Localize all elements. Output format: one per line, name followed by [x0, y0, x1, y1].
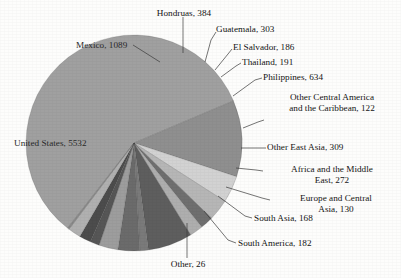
- label-guatemala: Guatemala, 303: [216, 24, 274, 35]
- label-mexico: Mexico, 1089: [76, 40, 127, 51]
- label-el-salvador: El Salvador, 186: [233, 42, 294, 53]
- leader-line-europe-central-asia: [226, 187, 270, 200]
- label-united-states: United States, 5532: [14, 138, 87, 149]
- label-south-america: South America, 182: [238, 238, 312, 249]
- leader-line-philippines: [233, 78, 262, 96]
- leader-line-el-salvador: [215, 49, 232, 70]
- label-other-central-america-line2: and the Caribbean, 122: [289, 103, 375, 113]
- leader-line-thailand: [221, 63, 241, 77]
- label-south-asia: South Asia, 168: [254, 213, 313, 224]
- leader-line-other-central-america: [243, 120, 264, 128]
- label-europe-central-asia-line1: Europe and Central: [300, 193, 372, 203]
- label-hondruas: Hondruas, 384: [130, 8, 238, 19]
- label-europe-central-asia-line2: Asia, 130: [318, 204, 353, 214]
- label-other-central-america-line1: Other Central America: [290, 92, 374, 102]
- label-other-east-asia: Other East Asia, 309: [267, 142, 343, 153]
- label-africa-middle-east-line1: Africa and the Middle: [291, 164, 373, 174]
- pie-chart-figure: Hondruas, 384 Guatemala, 303 El Salvador…: [0, 0, 401, 278]
- leader-line-africa-middle-east: [236, 168, 263, 171]
- label-other: Other, 26: [148, 259, 228, 270]
- leader-line-guatemala: [205, 32, 216, 62]
- label-other-central-america: Other Central America and the Caribbean,…: [264, 92, 400, 113]
- label-europe-central-asia: Europe and Central Asia, 130: [272, 193, 400, 214]
- label-thailand: Thailand, 191: [242, 57, 293, 68]
- label-philippines: Philippines, 634: [263, 72, 323, 83]
- label-africa-middle-east-line2: East, 272: [315, 175, 349, 185]
- label-africa-middle-east: Africa and the Middle East, 272: [264, 164, 400, 185]
